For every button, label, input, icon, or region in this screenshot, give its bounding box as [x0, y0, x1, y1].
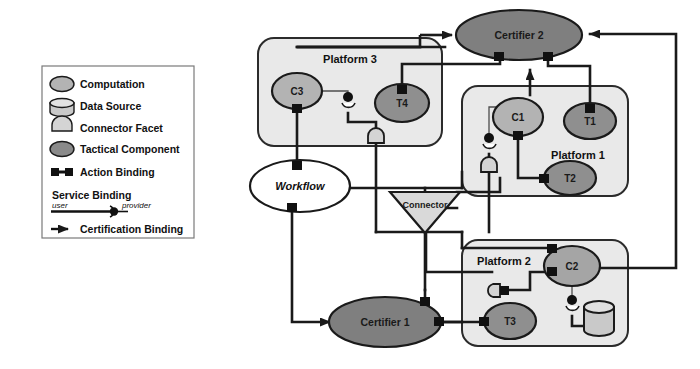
platform-label-platform3: Platform 3 [323, 53, 377, 65]
architecture-diagram: Computation Data Source Connector Facet … [0, 0, 700, 369]
node-datasource[interactable] [584, 301, 614, 336]
legend-item-label: Tactical Component [80, 143, 180, 155]
legend: Computation Data Source Connector Facet … [42, 66, 194, 238]
connector-facet-platform1[interactable] [481, 157, 497, 172]
tactical-component-ellipse-icon [50, 142, 74, 157]
action-binding-square [397, 85, 407, 94]
datasource-top [584, 301, 614, 313]
action-binding-square [539, 174, 549, 183]
action-binding-square [547, 267, 557, 276]
legend-item-label: Data Source [80, 100, 141, 112]
action-binding-square [500, 286, 509, 295]
computation-ellipse-icon [50, 77, 74, 92]
legend-item-label: Computation [80, 78, 145, 90]
node-workflow[interactable]: Workflow [250, 160, 350, 212]
action-binding-square [292, 104, 302, 113]
platform-label-platform1: Platform 1 [551, 149, 605, 161]
certifier2-label: Certifier 2 [494, 29, 543, 41]
service-binding-provider-label: provider [121, 201, 151, 210]
service-socket-icon [483, 144, 496, 148]
service-ball-icon [484, 133, 494, 143]
service-socket-icon [566, 306, 579, 310]
action-binding-square [287, 203, 297, 212]
c3-label: C3 [291, 86, 304, 97]
node-connector[interactable]: Connector [390, 192, 460, 233]
service-ball-icon [567, 295, 577, 305]
action-binding-square [513, 131, 523, 140]
node-certifier1[interactable]: Certifier 1 [329, 297, 444, 347]
diagram-canvas: Computation Data Source Connector Facet … [0, 0, 700, 369]
action-binding-square [479, 317, 489, 326]
wire-workflow-certifier1 [292, 210, 330, 322]
t1-label: T1 [584, 116, 596, 127]
service-binding-user-label: user [52, 201, 68, 210]
connector-facet-icon [52, 116, 72, 131]
t2-label: T2 [564, 173, 576, 184]
connector-facet-platform3[interactable] [368, 128, 384, 143]
action-binding-square [585, 104, 595, 113]
service-ball-icon [343, 92, 353, 102]
action-binding-square [434, 317, 444, 326]
action-binding-square [494, 52, 504, 61]
certifier1-label: Certifier 1 [360, 316, 409, 328]
legend-item-label: Connector Facet [80, 122, 163, 134]
service-binding-label: Service Binding [52, 189, 131, 201]
workflow-label: Workflow [275, 180, 326, 192]
t3-label: T3 [504, 316, 516, 327]
node-t4[interactable]: T4 [375, 84, 429, 122]
data-source-cylinder-icon [50, 99, 74, 117]
action-binding-square [547, 244, 557, 253]
legend-item-label: Action Binding [80, 166, 155, 178]
connector-shape[interactable] [390, 192, 460, 233]
certification-binding-label: Certification Binding [80, 223, 183, 235]
node-certifier2[interactable]: Certifier 2 [456, 10, 582, 61]
connector-label: Connector [403, 200, 448, 210]
platform-label-platform2: Platform 2 [477, 255, 531, 267]
t4-label: T4 [396, 98, 408, 109]
action-binding-square [543, 52, 553, 61]
c1-label: C1 [512, 112, 525, 123]
service-socket-icon [342, 103, 355, 107]
action-binding-square [292, 161, 302, 170]
node-t1[interactable]: T1 [564, 103, 616, 139]
c2-label: C2 [566, 261, 579, 272]
action-binding-square [420, 297, 430, 306]
